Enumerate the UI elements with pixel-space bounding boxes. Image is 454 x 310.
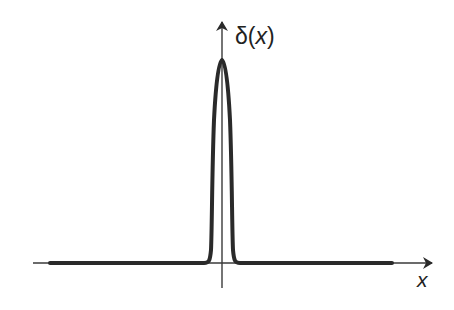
delta-curve — [50, 60, 392, 263]
diagram-svg — [0, 0, 454, 310]
y-axis-label: δ(x) — [235, 23, 275, 50]
y-axis-label-prefix: δ( — [235, 23, 255, 49]
y-axis-label-var: x — [255, 23, 267, 49]
y-axis-label-suffix: ) — [267, 23, 275, 49]
delta-function-diagram: δ(x) x — [0, 0, 454, 310]
x-axis-label: x — [417, 268, 428, 292]
